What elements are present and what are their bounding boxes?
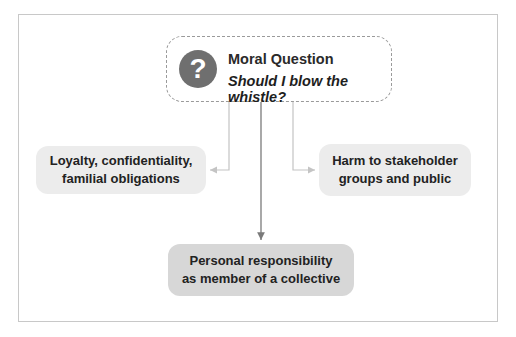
question-mark-icon: ?: [179, 50, 217, 88]
moral-question-box: ? Moral Question Should I blow the whist…: [166, 36, 392, 102]
node-label-line: Personal responsibility: [182, 252, 340, 270]
node-personal-responsibility: Personal responsibility as member of a c…: [168, 244, 354, 296]
node-label-line: as member of a collective: [182, 270, 340, 288]
node-label-line: groups and public: [332, 170, 458, 188]
node-loyalty: Loyalty, confidentiality, familial oblig…: [36, 146, 206, 194]
question-subtitle: Should I blow the whistle?: [228, 73, 391, 105]
node-label-line: Loyalty, confidentiality,: [50, 152, 193, 170]
node-label-line: familial obligations: [50, 170, 193, 188]
edge-to-right: [293, 102, 315, 170]
node-label-line: Harm to stakeholder: [332, 152, 458, 170]
node-harm: Harm to stakeholder groups and public: [319, 144, 471, 196]
edge-to-left: [210, 102, 229, 170]
question-title: Moral Question: [228, 51, 334, 67]
